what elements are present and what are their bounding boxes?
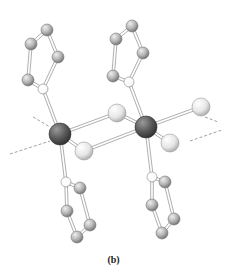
- nitrogen-atom: [61, 177, 71, 187]
- halide-atom: [192, 98, 210, 116]
- nitrogen-atom: [124, 77, 134, 87]
- dashed-line: [190, 130, 222, 141]
- molecular-structure-diagram: [0, 0, 227, 276]
- metal-atom: [49, 123, 71, 145]
- carbon-atom: [126, 20, 138, 32]
- nitrogen-atom: [147, 172, 157, 182]
- metal-atom: [135, 116, 157, 138]
- carbon-atom: [168, 213, 180, 225]
- carbon-atom: [52, 51, 64, 63]
- carbon-atom: [22, 74, 34, 86]
- carbon-atom: [74, 182, 86, 194]
- carbon-atom: [41, 24, 53, 36]
- figure-caption: (b): [0, 254, 227, 265]
- carbon-atom: [137, 47, 149, 59]
- carbon-atom: [61, 205, 73, 217]
- halide-atom: [75, 142, 93, 160]
- dashed-line: [205, 117, 218, 122]
- carbon-atom: [84, 219, 96, 231]
- carbon-atom: [25, 38, 37, 50]
- carbon-atom: [110, 33, 122, 45]
- carbon-atom: [156, 227, 168, 239]
- dashed-line: [10, 141, 50, 154]
- carbon-atom: [159, 176, 171, 188]
- dashed-contact-lines: [10, 117, 222, 154]
- carbon-atom: [71, 231, 83, 243]
- dashed-line: [33, 117, 50, 127]
- halide-atom: [108, 104, 126, 122]
- carbon-atom: [146, 199, 158, 211]
- nitrogen-atom: [38, 84, 48, 94]
- carbon-atom: [107, 70, 119, 82]
- halide-atom: [161, 134, 179, 152]
